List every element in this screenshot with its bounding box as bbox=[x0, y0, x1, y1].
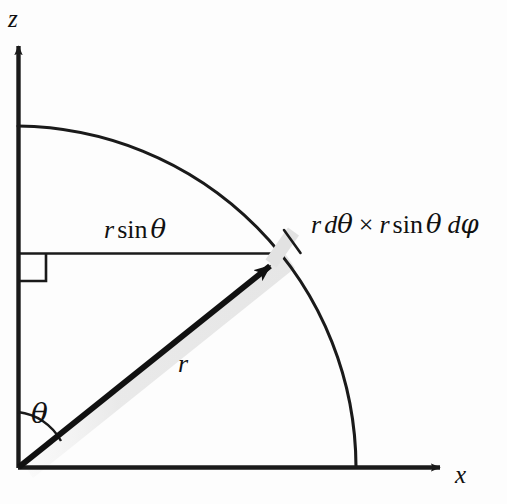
sin-symbol-2: sin bbox=[393, 210, 423, 239]
theta-symbol-2: θ bbox=[426, 209, 442, 239]
radius-vector-shadow bbox=[22, 252, 295, 478]
z-axis-label: z bbox=[8, 6, 18, 31]
radius-vector bbox=[19, 266, 270, 467]
sphere-arc bbox=[18, 126, 356, 467]
r-sin-theta-label: rsinθ bbox=[104, 216, 166, 243]
x-axis-label: x bbox=[455, 462, 466, 487]
radius-label: r bbox=[178, 351, 188, 377]
r-symbol: r bbox=[104, 215, 114, 244]
r-symbol-1: r bbox=[311, 210, 321, 239]
phi-symbol: φ bbox=[461, 209, 479, 239]
spherical-coordinates-diagram bbox=[0, 0, 507, 504]
sin-symbol: sin bbox=[117, 215, 147, 244]
d-symbol-1: d bbox=[324, 210, 337, 239]
d-symbol-2: d bbox=[448, 210, 461, 239]
theta-symbol: θ bbox=[150, 214, 166, 244]
r-symbol-2: r bbox=[379, 210, 389, 239]
area-element-label: rdθ×rsinθdφ bbox=[311, 211, 479, 238]
times-symbol: × bbox=[359, 210, 374, 239]
figure-root: z x rsinθ θ r rdθ×rsinθdφ bbox=[0, 0, 507, 504]
theta-symbol-1: θ bbox=[337, 209, 353, 239]
right-angle-marker bbox=[18, 253, 46, 281]
theta-angle-label: θ bbox=[31, 400, 48, 428]
